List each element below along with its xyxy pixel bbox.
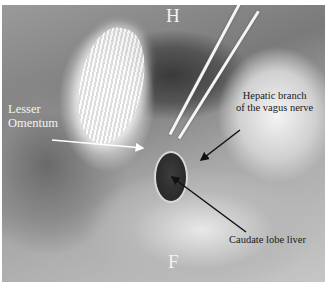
caudate-lobe-region (154, 151, 188, 203)
foot-orientation-label: F (168, 252, 179, 273)
head-orientation-label: H (166, 6, 180, 27)
label-line: Caudate lobe liver (229, 234, 306, 246)
hepatic-branch-label: Hepatic branch of the vagus nerve (236, 90, 313, 113)
label-line: Omentum (8, 117, 68, 131)
label-line: Lesser (8, 103, 68, 117)
bowel-loop (68, 22, 153, 150)
surgical-instrument (178, 10, 260, 139)
caudate-lobe-label: Caudate lobe liver (229, 234, 306, 246)
lesser-omentum-label: Lesser Omentum (8, 103, 68, 131)
label-line: of the vagus nerve (236, 102, 313, 114)
label-line: Hepatic branch (236, 90, 313, 102)
